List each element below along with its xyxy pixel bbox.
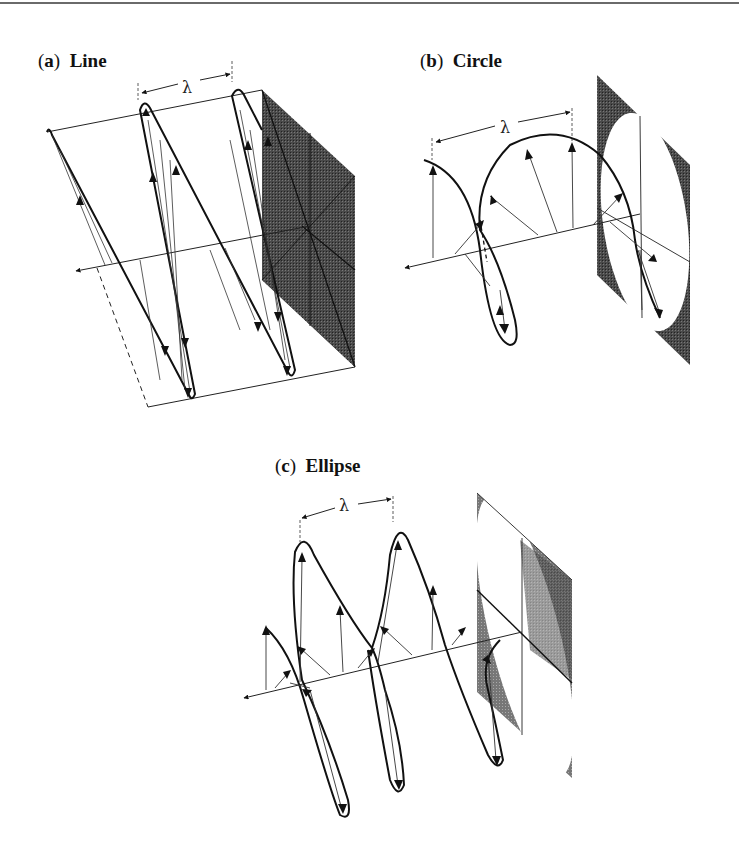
panel-c-elliptical-polarization bbox=[244, 487, 594, 817]
panel-a-line-polarization bbox=[47, 61, 355, 407]
polarization-diagram bbox=[0, 0, 739, 858]
panel-b-circular-polarization bbox=[405, 75, 702, 365]
